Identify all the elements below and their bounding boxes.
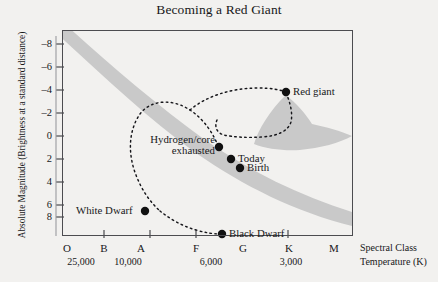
xtick-label-g: G: [228, 242, 258, 254]
xtick-label-o: O: [52, 242, 82, 254]
label-hydrogen-exhausted: Hydrogen/core exhausted: [121, 134, 215, 156]
xtick-label-a: A: [126, 242, 156, 254]
x-axis-caption-spectral: Spectral Class: [360, 242, 417, 253]
xtick-label-b: B: [89, 242, 119, 254]
chart-title: Becoming a Red Giant: [0, 2, 438, 18]
ytick-label-minus4: –4: [26, 84, 52, 95]
xtemp-label-3000: 3,000: [268, 256, 314, 267]
xtemp-label-6000: 6,000: [188, 256, 234, 267]
ytick-label-minus2: –2: [26, 107, 52, 118]
label-birth: Birth: [247, 161, 269, 173]
ytick-label-8: 8: [26, 211, 52, 222]
label-white-dwarf: White Dwarf: [76, 204, 133, 216]
label-black-dwarf: Black Dwarf: [229, 227, 284, 239]
label-red-giant: Red giant: [293, 85, 335, 97]
xtick-label-f: F: [181, 242, 211, 254]
xtemp-label-25000: 25,000: [58, 256, 104, 267]
ytick-label-0: 0: [26, 130, 52, 141]
xtick-label-k: K: [274, 242, 304, 254]
label-hydrogen-line2: exhausted: [121, 145, 215, 156]
x-axis-caption-temperature: Temperature (K): [360, 256, 427, 267]
ytick-label-minus8: –8: [26, 38, 52, 49]
hr-diagram-figure: Becoming a Red Giant Absolute Magnitude …: [0, 0, 438, 282]
ytick-label-4: 4: [26, 176, 52, 187]
ytick-label-2: 2: [26, 153, 52, 164]
xtick-label-m: M: [319, 242, 349, 254]
ytick-label-6: 6: [26, 199, 52, 210]
xtemp-label-10000: 10,000: [105, 256, 151, 267]
ytick-label-minus6: –6: [26, 61, 52, 72]
